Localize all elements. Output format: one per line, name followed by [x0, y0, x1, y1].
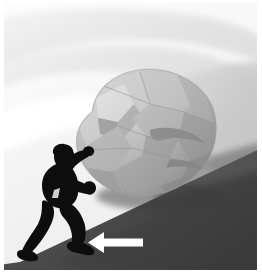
hand-lower [83, 181, 96, 194]
sisyphus-illustration [0, 0, 262, 276]
illustration-canvas: A black silhouette of a man leaning forw… [0, 0, 262, 276]
